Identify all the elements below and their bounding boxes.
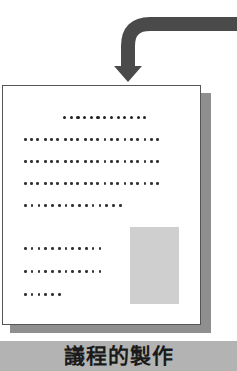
body-line-4	[24, 204, 122, 207]
side-line-2	[24, 270, 101, 273]
body-line-1	[24, 138, 159, 141]
title-dots	[63, 116, 146, 119]
document-page	[2, 85, 201, 325]
body-line-2	[24, 160, 159, 163]
image-placeholder	[130, 227, 179, 304]
side-line-3	[24, 293, 61, 296]
caption: 議程的製作	[0, 341, 237, 371]
curved-arrow-icon	[0, 0, 237, 90]
body-line-3	[24, 182, 159, 185]
side-line-1	[24, 247, 101, 250]
